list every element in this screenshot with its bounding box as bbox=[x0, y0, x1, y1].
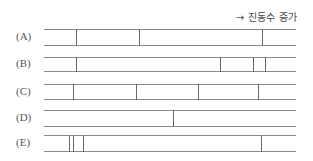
frequency-increase-caption: → 진동수 증가 bbox=[236, 9, 297, 24]
spectral-line bbox=[76, 57, 77, 72]
spectral-line bbox=[253, 57, 254, 72]
spectral-line bbox=[69, 135, 70, 152]
spectral-line bbox=[261, 135, 262, 152]
spectral-line bbox=[73, 84, 74, 100]
spectral-line bbox=[262, 29, 263, 46]
spectrum-top-line bbox=[44, 135, 296, 136]
spectrum-top-line bbox=[44, 110, 296, 111]
spectrum-top-line bbox=[44, 57, 296, 58]
spectral-line bbox=[173, 110, 174, 127]
spectrum-bottom-line bbox=[44, 45, 296, 46]
spectral-line bbox=[83, 135, 84, 152]
row-label: (E) bbox=[16, 136, 30, 148]
spectral-line bbox=[220, 57, 221, 72]
row-label: (A) bbox=[16, 30, 31, 42]
spectrum-bottom-line bbox=[44, 126, 296, 127]
spectral-line bbox=[136, 84, 137, 100]
spectral-line bbox=[258, 84, 259, 100]
spectrum-top-line bbox=[44, 29, 296, 30]
spectral-line bbox=[76, 29, 77, 46]
row-label: (B) bbox=[16, 57, 31, 69]
spectral-line bbox=[73, 135, 74, 152]
spectral-line bbox=[198, 84, 199, 100]
spectral-line bbox=[265, 57, 266, 72]
spectrum-bottom-line bbox=[44, 71, 296, 72]
spectrum-bottom-line bbox=[44, 151, 296, 152]
row-label: (C) bbox=[16, 85, 31, 97]
spectral-line bbox=[139, 29, 140, 46]
row-label: (D) bbox=[16, 111, 31, 123]
